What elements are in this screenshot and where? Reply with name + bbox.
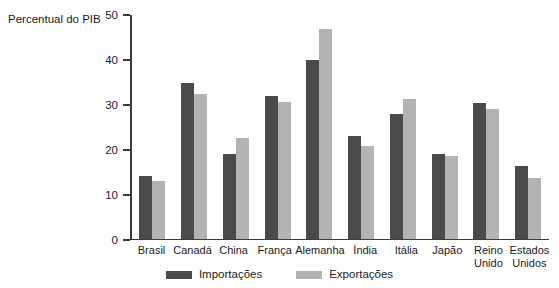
chart-legend: ImportaçõesExportações	[0, 268, 559, 281]
y-axis-title: Percentual do PIB	[8, 12, 101, 26]
bar-group	[173, 16, 215, 239]
bar-exportacoes	[152, 181, 165, 239]
x-axis-label: Itália	[386, 244, 427, 270]
y-axis-tick: 30	[123, 104, 130, 106]
bar-group	[466, 16, 508, 239]
y-axis-tick-label: 10	[105, 189, 118, 201]
legend-swatch-icon	[166, 271, 192, 279]
bar-exportacoes	[445, 156, 458, 239]
x-axis-labels: BrasilCanadáChinaFrançaAlemanhaÍndiaItál…	[131, 244, 550, 270]
x-axis-label: Reino Unido	[468, 244, 509, 270]
y-axis-tick-label: 30	[105, 99, 118, 111]
bar-exportacoes	[403, 99, 416, 238]
y-axis-tick: 50	[123, 14, 130, 16]
y-axis-tick-label: 20	[105, 144, 118, 156]
bar-exportacoes	[194, 94, 207, 238]
bar-group	[507, 16, 549, 239]
bar-importacoes	[265, 96, 278, 239]
bar-group	[132, 16, 174, 239]
x-axis-label: Estados Unidos	[509, 244, 550, 270]
x-axis-label: Alemanha	[295, 244, 345, 270]
y-axis-tick-label: 50	[105, 9, 118, 21]
legend-label: Importações	[199, 268, 262, 281]
bar-importacoes	[515, 166, 528, 239]
bar-importacoes	[139, 176, 152, 238]
bar-exportacoes	[486, 109, 499, 238]
y-axis-tick-label: 0	[112, 234, 118, 246]
legend-entry[interactable]: Exportações	[296, 268, 393, 281]
bar-exportacoes	[236, 138, 249, 238]
y-axis-tick: 0	[123, 239, 130, 241]
bar-importacoes	[223, 154, 236, 239]
bar-importacoes	[473, 103, 486, 239]
bar-exportacoes	[319, 29, 332, 239]
legend-swatch-icon	[296, 271, 322, 279]
bar-exportacoes	[278, 102, 291, 239]
bar-group	[340, 16, 382, 239]
bar-importacoes	[390, 114, 403, 239]
bar-chart-figure: Percentual do PIB 01020304050 BrasilCana…	[0, 0, 559, 288]
y-axis-tick: 10	[123, 194, 130, 196]
bar-exportacoes	[361, 146, 374, 238]
bar-group	[382, 16, 424, 239]
x-axis-label: Índia	[345, 244, 386, 270]
bar-exportacoes	[528, 178, 541, 238]
x-axis-label: China	[213, 244, 254, 270]
bar-importacoes	[306, 60, 319, 238]
y-axis-tick: 20	[123, 149, 130, 151]
bar-groups	[132, 16, 550, 239]
x-axis-label: Japão	[427, 244, 468, 270]
legend-entry[interactable]: Importações	[166, 268, 262, 281]
bar-group	[215, 16, 257, 239]
x-axis-label: Brasil	[131, 244, 172, 270]
bar-group	[299, 16, 341, 239]
bar-importacoes	[432, 154, 445, 239]
bar-importacoes	[181, 83, 194, 238]
bar-group	[424, 16, 466, 239]
legend-label: Exportações	[329, 268, 393, 281]
x-axis-line	[130, 239, 549, 241]
x-axis-label: França	[254, 244, 295, 270]
y-axis-tick-label: 40	[105, 54, 118, 66]
x-axis-label: Canadá	[172, 244, 213, 270]
plot-area: 01020304050	[130, 15, 549, 240]
bar-group	[257, 16, 299, 239]
bar-importacoes	[348, 136, 361, 239]
y-axis-tick: 40	[123, 59, 130, 61]
